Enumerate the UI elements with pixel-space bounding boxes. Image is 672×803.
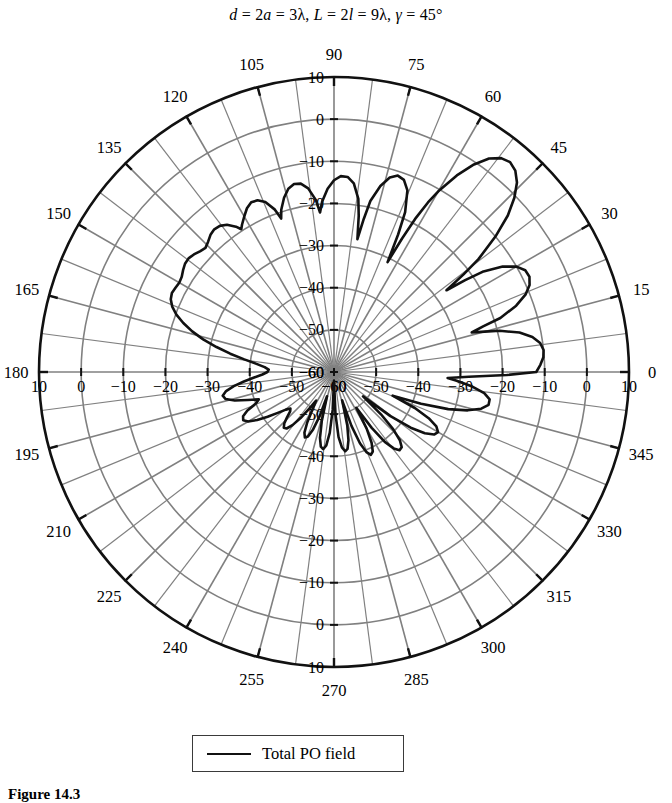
angular-label-30: 30 <box>601 204 618 223</box>
angular-label-90: 90 <box>326 45 343 64</box>
angular-label-195: 195 <box>14 445 39 464</box>
radial-label--10db: −10 <box>532 378 557 395</box>
angular-label-345: 345 <box>629 445 654 464</box>
legend-label-total-po-field: Total PO field <box>262 744 355 764</box>
radial-label-10db: 10 <box>31 378 47 395</box>
radial-label--30db: −30 <box>299 237 324 254</box>
polar-chart: 0153045607590105120135150165180195210225… <box>0 0 672 720</box>
angular-label-15: 15 <box>633 280 650 299</box>
angular-label-270: 270 <box>322 681 347 700</box>
radial-label--30db: −30 <box>195 378 220 395</box>
radial-label--30db: −30 <box>299 490 324 507</box>
angular-label-135: 135 <box>97 138 122 157</box>
radial-label-10db: 10 <box>308 69 324 86</box>
radial-label-0db: 0 <box>77 378 85 395</box>
radial-label-10db: 10 <box>308 659 324 676</box>
radial-label-0db: 0 <box>583 378 591 395</box>
angular-label-60: 60 <box>485 87 502 106</box>
angular-label-150: 150 <box>46 204 71 223</box>
radial-label--40db: −40 <box>406 378 431 395</box>
angular-label-225: 225 <box>97 587 122 606</box>
angular-label-180: 180 <box>4 363 29 382</box>
legend-line-swatch <box>207 753 251 755</box>
angular-label-255: 255 <box>239 670 264 689</box>
angular-label-105: 105 <box>239 55 264 74</box>
angular-label-240: 240 <box>163 638 188 657</box>
angular-label-165: 165 <box>14 280 39 299</box>
radial-label-10db: 10 <box>621 378 637 395</box>
angular-label-75: 75 <box>408 55 425 74</box>
radial-label--60db: −60 <box>299 364 324 381</box>
radial-label--50db: −50 <box>279 378 304 395</box>
radial-label--50db: −50 <box>364 378 389 395</box>
radial-label--20db: −20 <box>153 378 178 395</box>
angular-label-210: 210 <box>46 522 71 541</box>
figure-caption: Figure 14.3 <box>8 786 80 803</box>
radial-label-0db: 0 <box>316 616 324 633</box>
radial-label-0db: 0 <box>316 111 324 128</box>
radial-label--40db: −40 <box>299 279 324 296</box>
radial-label--50db: −50 <box>299 321 324 338</box>
radial-label--40db: −40 <box>299 448 324 465</box>
angular-label-285: 285 <box>404 670 429 689</box>
angular-label-120: 120 <box>163 87 188 106</box>
angular-label-0: 0 <box>648 363 656 382</box>
radial-label--10db: −10 <box>299 574 324 591</box>
radial-label--20db: −20 <box>490 378 515 395</box>
radial-label--10db: −10 <box>299 153 324 170</box>
angular-label-45: 45 <box>551 138 568 157</box>
legend: Total PO field <box>192 735 404 772</box>
radial-label--20db: −20 <box>299 532 324 549</box>
angular-label-315: 315 <box>546 587 571 606</box>
radial-label--10db: −10 <box>111 378 136 395</box>
angular-label-330: 330 <box>597 522 622 541</box>
angular-label-300: 300 <box>481 638 506 657</box>
